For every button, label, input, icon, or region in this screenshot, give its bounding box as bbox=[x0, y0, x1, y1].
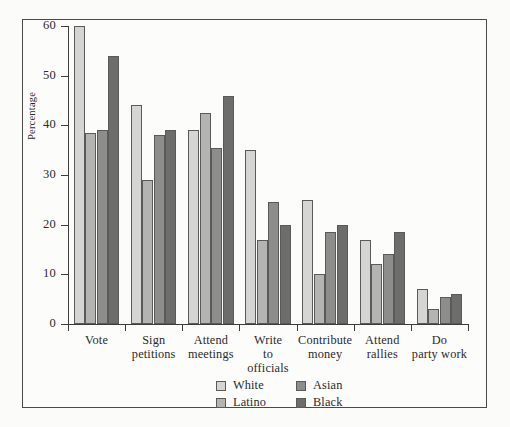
bar bbox=[74, 26, 85, 324]
bar bbox=[165, 130, 176, 324]
bar bbox=[440, 297, 451, 324]
bar-group bbox=[360, 26, 406, 324]
bar bbox=[154, 135, 165, 324]
bar-group bbox=[188, 26, 234, 324]
y-tick: 40 bbox=[61, 125, 68, 126]
y-tick: 20 bbox=[61, 225, 68, 226]
y-tick: 10 bbox=[61, 274, 68, 275]
chart-legend: WhiteAsianLatinoBlack bbox=[216, 378, 342, 410]
legend-item[interactable]: Black bbox=[296, 395, 342, 410]
legend-label: Latino bbox=[233, 395, 266, 410]
legend-label: Black bbox=[313, 395, 342, 410]
legend-item[interactable]: Latino bbox=[216, 395, 266, 410]
bar bbox=[325, 232, 336, 324]
bar bbox=[314, 274, 325, 324]
y-tick-label: 40 bbox=[43, 117, 56, 132]
x-tick bbox=[68, 324, 69, 331]
bar bbox=[280, 225, 291, 324]
bar bbox=[142, 180, 153, 324]
legend-swatch-icon bbox=[216, 398, 226, 408]
bar bbox=[245, 150, 256, 324]
chart-figure: Percentage 0102030405060 VoteSignpetitio… bbox=[0, 0, 510, 427]
x-category-line: Do bbox=[402, 333, 476, 347]
x-tick bbox=[411, 324, 412, 331]
bar bbox=[383, 254, 394, 324]
bar bbox=[371, 264, 382, 324]
y-tick-label: 20 bbox=[43, 217, 56, 232]
y-tick: 50 bbox=[61, 76, 68, 77]
bar bbox=[394, 232, 405, 324]
bar bbox=[417, 289, 428, 324]
bar-group bbox=[131, 26, 177, 324]
bar-group bbox=[74, 26, 120, 324]
y-tick: 0 bbox=[61, 324, 68, 325]
bar bbox=[257, 240, 268, 324]
x-tick bbox=[182, 324, 183, 331]
y-tick-label: 60 bbox=[43, 18, 56, 33]
legend-label: White bbox=[233, 378, 264, 393]
x-axis bbox=[68, 324, 468, 325]
bar bbox=[337, 225, 348, 324]
x-category-line: officials bbox=[231, 361, 305, 375]
y-tick: 30 bbox=[61, 175, 68, 176]
legend-item[interactable]: White bbox=[216, 378, 266, 393]
x-tick bbox=[354, 324, 355, 331]
y-tick-label: 30 bbox=[43, 167, 56, 182]
legend-label: Asian bbox=[313, 378, 342, 393]
bar bbox=[360, 240, 371, 324]
bar-group bbox=[302, 26, 348, 324]
legend-swatch-icon bbox=[296, 381, 306, 391]
bar bbox=[200, 113, 211, 324]
bar bbox=[451, 294, 462, 324]
bar bbox=[211, 148, 222, 324]
x-category-label: Doparty work bbox=[402, 333, 476, 361]
y-tick-label: 10 bbox=[43, 266, 56, 281]
x-tick bbox=[125, 324, 126, 331]
y-tick-label: 50 bbox=[43, 68, 56, 83]
legend-swatch-icon bbox=[216, 381, 226, 391]
bar-group bbox=[417, 26, 463, 324]
bar bbox=[223, 96, 234, 324]
bar bbox=[302, 200, 313, 324]
bar bbox=[97, 130, 108, 324]
legend-item[interactable]: Asian bbox=[296, 378, 342, 393]
bar bbox=[268, 202, 279, 324]
y-tick: 60 bbox=[61, 26, 68, 27]
bar bbox=[131, 105, 142, 324]
x-tick bbox=[239, 324, 240, 331]
legend-swatch-icon bbox=[296, 398, 306, 408]
y-axis-label: Percentage bbox=[26, 92, 37, 140]
x-tick bbox=[468, 324, 469, 331]
bar bbox=[108, 56, 119, 324]
bar bbox=[428, 309, 439, 324]
x-tick bbox=[297, 324, 298, 331]
x-category-line: party work bbox=[402, 347, 476, 361]
y-tick-label: 0 bbox=[49, 316, 56, 331]
bar bbox=[188, 130, 199, 324]
bar-group bbox=[245, 26, 291, 324]
bar bbox=[85, 133, 96, 324]
plot-area bbox=[68, 26, 468, 324]
